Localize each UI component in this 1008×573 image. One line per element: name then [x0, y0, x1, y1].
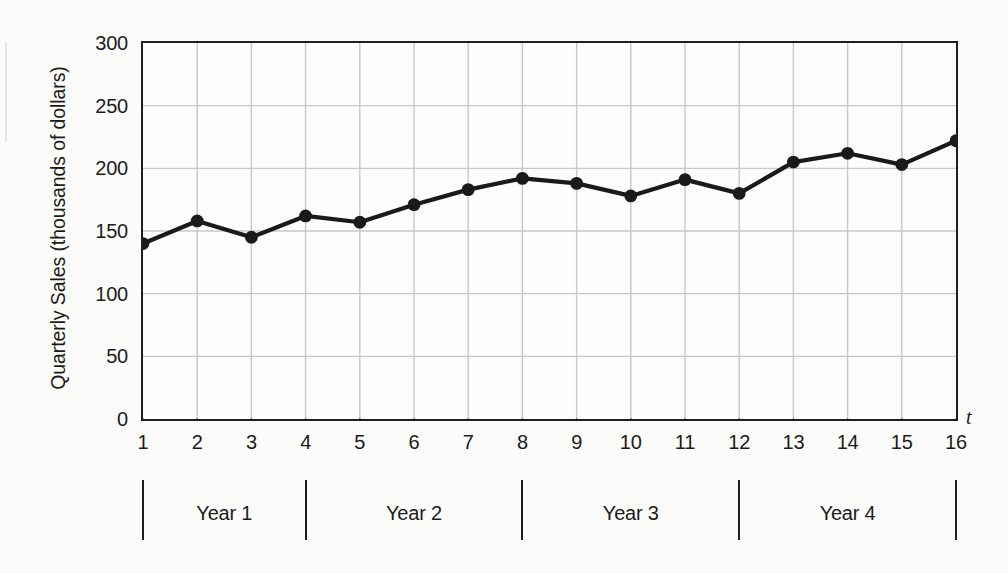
y-tick-label: 150 [68, 220, 128, 243]
data-point-marker [733, 187, 746, 200]
data-point-marker [408, 198, 421, 211]
data-point-marker [679, 173, 692, 186]
year-group-label: Year 3 [551, 502, 711, 525]
data-point-marker [462, 183, 475, 196]
x-tick-label: 5 [340, 431, 380, 454]
data-point-marker [299, 210, 312, 223]
plot-area [141, 41, 958, 421]
x-axis-label-t: t [966, 406, 972, 429]
x-tick-label: 11 [665, 431, 705, 454]
x-tick-label: 16 [936, 431, 976, 454]
y-tick-label: 300 [68, 32, 128, 55]
chart-figure: Quarterly Sales (thousands of dollars) 0… [0, 0, 1008, 573]
scan-artifact-line [5, 42, 7, 142]
year-group-label: Year 2 [334, 502, 494, 525]
x-tick-label: 10 [611, 431, 651, 454]
x-tick-label: 2 [177, 431, 217, 454]
x-tick-label: 15 [882, 431, 922, 454]
data-point-marker [353, 216, 366, 229]
line-chart-svg [143, 43, 956, 419]
y-tick-label: 100 [68, 282, 128, 305]
year-group-label: Year 4 [768, 502, 928, 525]
year-separator [305, 480, 307, 540]
x-tick-label: 14 [828, 431, 868, 454]
year-separator [738, 480, 740, 540]
x-tick-label: 7 [448, 431, 488, 454]
year-separator [955, 480, 957, 540]
x-tick-label: 3 [231, 431, 271, 454]
x-tick-label: 8 [502, 431, 542, 454]
x-tick-label: 1 [123, 431, 163, 454]
x-axis-tick-labels: 12345678910111213141516 [0, 431, 1008, 461]
data-point-marker [787, 156, 800, 169]
data-point-markers [143, 134, 956, 419]
data-point-marker [841, 147, 854, 160]
data-point-marker [624, 190, 637, 203]
data-point-marker [191, 215, 204, 228]
x-tick-label: 4 [286, 431, 326, 454]
data-point-marker [570, 177, 583, 190]
data-point-marker [516, 172, 529, 185]
year-group-band: Year 1Year 2Year 3Year 4 [0, 480, 1008, 550]
y-tick-label: 0 [68, 408, 128, 431]
data-line [143, 141, 956, 244]
x-tick-label: 9 [557, 431, 597, 454]
y-tick-label: 200 [68, 157, 128, 180]
y-tick-label: 50 [68, 345, 128, 368]
x-tick-label: 6 [394, 431, 434, 454]
x-tick-label: 12 [719, 431, 759, 454]
year-separator [521, 480, 523, 540]
data-point-marker [895, 158, 908, 171]
y-tick-label: 250 [68, 94, 128, 117]
data-point-marker [245, 231, 258, 244]
x-tick-label: 13 [773, 431, 813, 454]
year-group-label: Year 1 [144, 502, 304, 525]
